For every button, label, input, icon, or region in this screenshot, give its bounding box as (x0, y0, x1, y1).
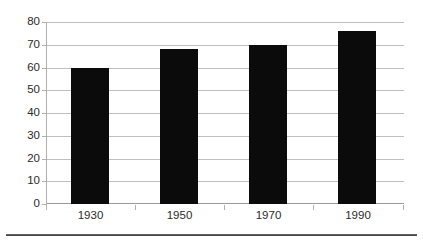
y-axis-labels: 80 70 60 50 40 30 20 10 0 (0, 0, 40, 246)
bar-1990 (338, 31, 376, 204)
y-axis-label-80: 80 (6, 16, 40, 28)
gridline-80 (46, 22, 404, 23)
bar-1970 (249, 45, 287, 204)
y-axis-label-20: 20 (6, 153, 40, 165)
y-tick-80 (42, 22, 46, 23)
y-axis-label-50: 50 (6, 85, 40, 97)
x-axis-label-1990: 1990 (313, 210, 403, 222)
bar-1950 (160, 49, 198, 204)
y-tick-30 (42, 136, 46, 137)
y-tick-20 (42, 159, 46, 160)
y-tick-50 (42, 90, 46, 91)
y-axis-label-0: 0 (6, 198, 40, 210)
y-axis-label-30: 30 (6, 130, 40, 142)
x-axis-label-1970: 1970 (224, 210, 313, 222)
x-axis-label-1950: 1950 (135, 210, 224, 222)
y-axis-label-10: 10 (6, 176, 40, 188)
y-axis-line (46, 22, 47, 205)
x-tick-4 (403, 205, 404, 210)
y-tick-60 (42, 68, 46, 69)
bar-1930 (71, 68, 109, 205)
plot-area (46, 22, 404, 204)
x-axis-label-1930: 1930 (46, 210, 135, 222)
y-tick-40 (42, 113, 46, 114)
y-tick-70 (42, 45, 46, 46)
bottom-separator-rule (6, 234, 417, 236)
y-axis-label-40: 40 (6, 107, 40, 119)
bar-chart-figure: 80 70 60 50 40 30 20 10 0 1930 1950 1970… (0, 0, 423, 246)
y-axis-label-70: 70 (6, 39, 40, 51)
y-tick-10 (42, 181, 46, 182)
y-axis-label-60: 60 (6, 62, 40, 74)
